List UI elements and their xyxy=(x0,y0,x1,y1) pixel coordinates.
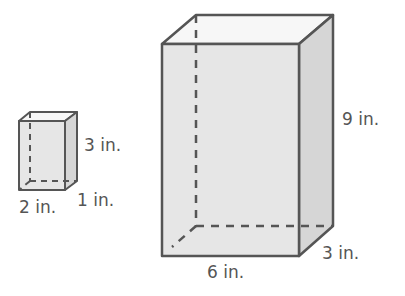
large-width-label: 6 in. xyxy=(207,264,244,281)
large-side-face xyxy=(299,15,333,256)
small-width-label: 2 in. xyxy=(19,199,56,216)
small-depth-label: 1 in. xyxy=(77,192,114,209)
large-depth-label: 3 in. xyxy=(322,245,359,262)
small-height-label: 3 in. xyxy=(84,137,121,154)
small-front-face xyxy=(19,121,65,190)
large-front-face xyxy=(162,44,299,256)
large-rectangular-prism xyxy=(162,15,333,256)
small-side-face xyxy=(65,112,77,190)
large-height-label: 9 in. xyxy=(342,111,379,128)
small-rectangular-prism xyxy=(19,112,77,190)
